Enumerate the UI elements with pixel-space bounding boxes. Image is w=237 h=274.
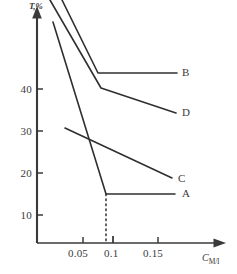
x-axis-title: CM/I xyxy=(202,252,219,266)
curve-label-a: A xyxy=(182,187,190,199)
curve-d xyxy=(50,0,176,113)
x-axis-title-main: C xyxy=(202,252,209,263)
y-tick-label-30: 30 xyxy=(12,125,32,137)
data-curves-group xyxy=(50,0,177,194)
y-tick-label-20: 20 xyxy=(12,167,32,179)
x-axis-title-subscript: M/I xyxy=(209,257,220,266)
y-tick-label-40: 40 xyxy=(12,83,32,95)
y-axis-title: T,% xyxy=(29,1,43,11)
axes-group xyxy=(32,6,226,247)
curve-label-b: B xyxy=(182,66,189,78)
curve-b xyxy=(62,0,177,73)
curve-label-c: C xyxy=(178,172,185,184)
x-tick-label-0-05: 0.05 xyxy=(68,247,88,259)
curve-a xyxy=(53,22,175,194)
x-axis-arrowhead xyxy=(214,239,227,248)
x-tick-label-0-15: 0.15 xyxy=(143,247,163,259)
chart-plot-area xyxy=(0,0,237,274)
x-ticks-group xyxy=(83,236,158,243)
curve-c xyxy=(65,128,172,178)
x-tick-label-0-1: 0.1 xyxy=(104,247,118,259)
chart-figure: T,% 40 30 20 10 0.05 0.1 0.15 CM/I B D C… xyxy=(0,0,237,274)
y-tick-label-10: 10 xyxy=(12,209,32,221)
curve-label-d: D xyxy=(182,106,190,118)
